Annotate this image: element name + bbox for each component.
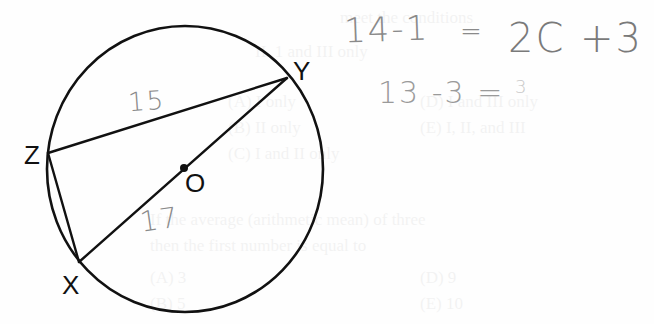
handwritten-length-zy: 15 <box>127 87 166 116</box>
handwritten-equation-line2: 13 -3 = <box>378 78 504 108</box>
handwritten-equation-left: 14-1 <box>343 11 429 48</box>
chord-zy <box>48 78 287 153</box>
point-label-o: O <box>185 170 205 196</box>
handwritten-equation-right: 2C +3 <box>508 18 643 58</box>
handwritten-length-ox: 17 <box>138 203 181 236</box>
point-label-x: X <box>62 272 79 298</box>
point-label-y: Y <box>293 58 310 84</box>
handwritten-scribble: 3 <box>515 78 528 96</box>
handwritten-equals-sign: = <box>460 18 484 44</box>
scanned-page: meet the conditions II. 1 and III only (… <box>0 0 654 324</box>
point-label-z: Z <box>24 142 40 168</box>
